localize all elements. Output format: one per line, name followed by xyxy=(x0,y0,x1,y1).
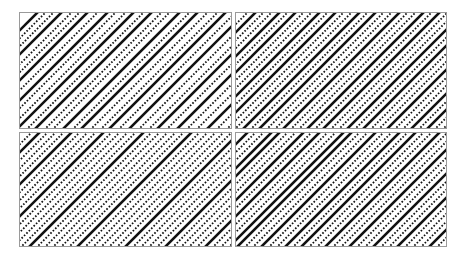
dotted-stripe xyxy=(236,13,345,128)
solid-stripe xyxy=(236,133,281,246)
diagonal-pattern xyxy=(20,133,231,246)
panel-bottom-left xyxy=(19,132,232,247)
dotted-stripe xyxy=(20,13,99,128)
dotted-stripe xyxy=(236,13,329,128)
panel-top-right xyxy=(235,12,447,129)
diagonal-pattern xyxy=(236,133,446,246)
solid-stripe xyxy=(80,13,199,128)
dotted-stripe xyxy=(236,133,329,246)
dotted-stripe xyxy=(140,133,231,246)
dotted-stripe xyxy=(90,13,209,128)
dotted-stripe xyxy=(378,13,446,128)
solid-stripe xyxy=(20,13,63,128)
solid-stripe xyxy=(410,13,446,128)
dotted-stripe xyxy=(20,133,49,246)
solid-stripe xyxy=(62,13,181,128)
figure-frame xyxy=(19,12,447,247)
solid-stripe xyxy=(34,13,153,128)
diagonal-pattern xyxy=(20,13,231,128)
dotted-stripe xyxy=(354,13,446,128)
panel-bottom-right xyxy=(235,132,447,247)
dotted-stripe xyxy=(100,13,219,128)
dotted-stripe xyxy=(356,133,446,246)
dotted-stripe xyxy=(402,13,446,128)
dotted-stripe xyxy=(20,133,65,246)
solid-stripe xyxy=(176,13,231,128)
dotted-stripe xyxy=(20,133,113,246)
panel-top-left xyxy=(19,12,232,129)
diagonal-pattern xyxy=(236,13,446,128)
dotted-stripe xyxy=(44,13,163,128)
solid-stripe xyxy=(20,13,135,128)
dotted-stripe xyxy=(20,133,129,246)
solid-stripe xyxy=(236,13,281,128)
